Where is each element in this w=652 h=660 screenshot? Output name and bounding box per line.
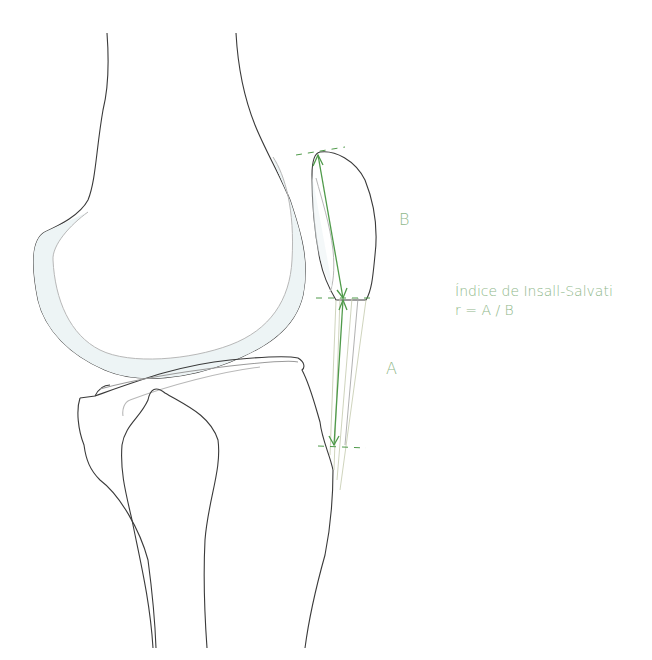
segment-a-label: A <box>386 359 397 378</box>
tibia <box>78 357 333 648</box>
index-title: Índice de Insall-Salvati <box>455 282 613 301</box>
knee-illustration <box>0 0 652 660</box>
insall-salvati-diagram: B A Índice de Insall-Salvati r = A / B <box>0 0 652 660</box>
index-formula: r = A / B <box>455 301 613 320</box>
fibula <box>122 389 219 648</box>
patellar-tendon <box>330 298 366 490</box>
segment-b-label: B <box>399 210 409 229</box>
index-caption: Índice de Insall-Salvati r = A / B <box>455 282 613 320</box>
